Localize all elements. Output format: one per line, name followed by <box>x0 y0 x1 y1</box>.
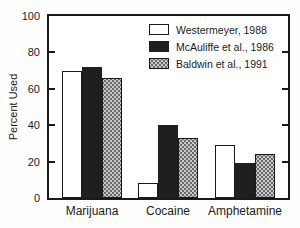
bar-solid-cocaine <box>158 125 178 198</box>
bar-halftone-amphetamine <box>255 154 275 198</box>
y-tick-label-60: 60 <box>8 82 40 96</box>
y-tick-mark-left-80 <box>49 51 55 53</box>
legend-label: Westermeyer, 1988 <box>176 24 267 36</box>
bar-open-marijuana <box>62 71 82 198</box>
y-tick-mark-right-60 <box>282 88 288 90</box>
y-tick-mark-left-20 <box>49 161 55 163</box>
legend-label: McAuliffe et al., 1986 <box>176 41 274 53</box>
y-tick-mark-right-80 <box>282 51 288 53</box>
y-tick-mark-left-40 <box>49 124 55 126</box>
legend-swatch-solid <box>149 41 169 52</box>
legend-swatch-open <box>149 24 169 35</box>
legend: Westermeyer, 1988McAuliffe et al., 1986B… <box>149 24 274 75</box>
legend-row: Westermeyer, 1988 <box>149 24 274 35</box>
y-tick-mark-left-60 <box>49 88 55 90</box>
bar-open-cocaine <box>138 183 158 198</box>
bar-solid-amphetamine <box>235 163 255 198</box>
bar-halftone-marijuana <box>102 78 122 198</box>
y-tick-mark-right-40 <box>282 124 288 126</box>
bar-halftone-cocaine <box>178 138 198 198</box>
x-category-label-amphetamine: Amphetamine <box>200 204 290 218</box>
bar-open-amphetamine <box>215 145 235 198</box>
legend-label: Baldwin et al., 1991 <box>176 58 268 70</box>
y-tick-mark-right-20 <box>282 161 288 163</box>
legend-row: McAuliffe et al., 1986 <box>149 41 274 52</box>
legend-row: Baldwin et al., 1991 <box>149 58 274 69</box>
y-tick-label-100: 100 <box>8 9 40 23</box>
y-tick-label-20: 20 <box>8 155 40 169</box>
y-tick-label-40: 40 <box>8 118 40 132</box>
legend-swatch-halftone <box>149 58 169 69</box>
y-tick-label-80: 80 <box>8 45 40 59</box>
bar-chart-figure: Percent Used 020406080100 MarijuanaCocai… <box>0 0 300 228</box>
bar-solid-marijuana <box>82 67 102 198</box>
y-tick-label-0: 0 <box>8 191 40 205</box>
